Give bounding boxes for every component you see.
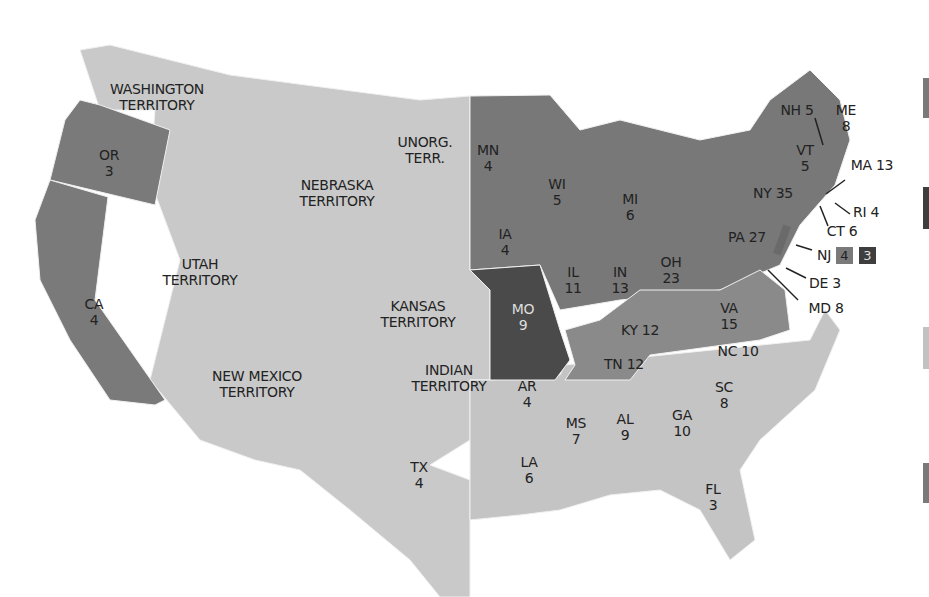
label-nj: NJ: [817, 247, 831, 263]
legend-swatch-3: [923, 327, 929, 369]
label-nm: NEW MEXICOTERRITORY: [212, 368, 302, 400]
label-tx: TX4: [410, 459, 428, 491]
label-ri: RI 4: [853, 204, 879, 220]
label-wa: WASHINGTONTERRITORY: [110, 81, 204, 113]
label-md: MD 8: [808, 300, 843, 316]
label-in: IN13: [611, 264, 628, 296]
label-tn: TN 12: [604, 356, 644, 372]
label-me: ME8: [836, 102, 856, 134]
label-ind: INDIANTERRITORY: [411, 362, 486, 394]
label-nh: NH 5: [780, 102, 813, 118]
label-ma: MA 13: [851, 157, 893, 173]
label-wi: WI5: [548, 176, 565, 208]
label-ca: CA4: [85, 296, 104, 328]
label-ks: KANSASTERRITORY: [380, 298, 455, 330]
label-ky: KY 12: [621, 322, 659, 338]
label-mn: MN4: [477, 142, 499, 174]
label-la: LA6: [520, 454, 537, 486]
label-va: VA15: [720, 300, 738, 332]
label-mo: MO9: [512, 301, 535, 333]
label-sc: SC8: [715, 379, 733, 411]
label-fl: FL3: [705, 481, 720, 513]
legend-swatch-1: [923, 78, 929, 118]
label-nc: NC 10: [717, 343, 758, 359]
nj-split-box-b: 3: [859, 247, 876, 264]
legend-swatch-4: [923, 463, 929, 503]
label-pa: PA 27: [728, 229, 766, 245]
label-ny: NY 35: [753, 185, 793, 201]
label-ct: CT 6: [827, 223, 858, 239]
nj-split-box-a: 4: [836, 247, 853, 264]
label-ga: GA10: [672, 407, 692, 439]
label-vt: VT5: [796, 142, 814, 174]
label-ms: MS7: [566, 415, 586, 447]
label-oh: OH23: [661, 254, 682, 286]
state-ca: [35, 180, 165, 405]
label-de: DE 3: [809, 275, 841, 291]
label-unorg: UNORG.TERR.: [398, 134, 453, 166]
label-ia: IA4: [498, 226, 511, 258]
label-il: IL11: [564, 264, 581, 296]
legend-swatch-2: [923, 187, 929, 229]
label-ne: NEBRASKATERRITORY: [299, 177, 374, 209]
label-mi: MI6: [622, 191, 638, 223]
label-al: AL9: [617, 411, 634, 443]
label-ut: UTAHTERRITORY: [162, 256, 237, 288]
label-or: OR3: [99, 147, 119, 179]
label-ar: AR4: [518, 378, 537, 410]
